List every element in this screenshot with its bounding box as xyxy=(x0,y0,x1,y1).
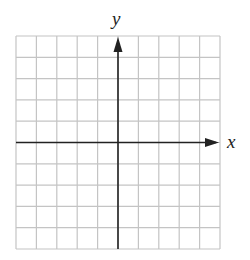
axes xyxy=(16,37,219,249)
x-axis-arrowhead-icon xyxy=(205,138,219,147)
x-axis-label: x xyxy=(226,131,236,152)
coordinate-grid: x y xyxy=(0,0,250,260)
y-axis-arrowhead-icon xyxy=(114,37,123,52)
y-axis-label: y xyxy=(110,8,121,29)
